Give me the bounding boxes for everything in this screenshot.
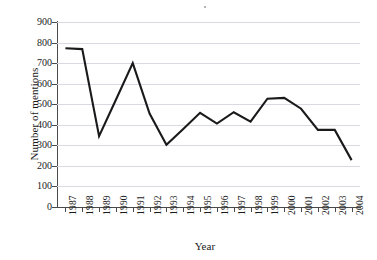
x-tick-mark (217, 207, 218, 212)
x-tick-mark (116, 207, 117, 212)
x-tick-mark (65, 207, 66, 212)
plot-area (57, 22, 360, 207)
y-tick-label: 400 (12, 120, 52, 130)
y-tick-label: 500 (12, 99, 52, 109)
x-tick-mark (183, 207, 184, 212)
y-tick-label: 100 (12, 181, 52, 191)
x-tick-mark (200, 207, 201, 212)
y-tick-label: 600 (12, 79, 52, 89)
x-tick-mark (251, 207, 252, 212)
y-tick-label: 700 (12, 58, 52, 68)
x-tick-mark (267, 207, 268, 212)
x-tick-mark (82, 207, 83, 212)
x-tick-mark (352, 207, 353, 212)
y-tick-label: 200 (12, 161, 52, 171)
mentions-line-series (57, 22, 360, 207)
x-tick-mark (99, 207, 100, 212)
x-tick-mark (301, 207, 302, 212)
x-tick-mark (166, 207, 167, 212)
x-tick-mark (150, 207, 151, 212)
x-tick-mark (335, 207, 336, 212)
y-tick-label: 300 (12, 140, 52, 150)
y-tick-label: 900 (12, 17, 52, 27)
x-tick-mark (133, 207, 134, 212)
y-tick-label: 0 (12, 202, 52, 212)
chart-figure: Number of mentions Year 0100200300400500… (0, 0, 377, 260)
x-tick-mark (234, 207, 235, 212)
scan-artifact-speck (204, 6, 206, 8)
x-tick-mark (318, 207, 319, 212)
x-tick-mark (284, 207, 285, 212)
y-tick-mark (52, 207, 57, 208)
x-axis-title: Year (55, 240, 355, 252)
y-tick-label: 800 (12, 38, 52, 48)
